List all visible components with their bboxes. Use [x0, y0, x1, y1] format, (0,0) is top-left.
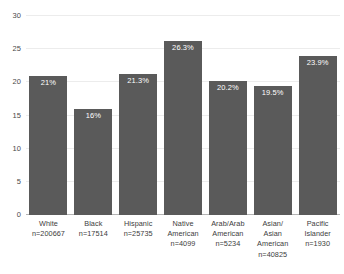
y-axis-tick-label: 30	[12, 11, 21, 20]
bar[interactable]: 21.3%	[119, 74, 157, 215]
x-axis-category-name: American	[205, 229, 250, 239]
bar-value-label: 21%	[29, 78, 67, 87]
x-axis-sample-size: n=200667	[26, 229, 71, 239]
x-axis-category-label: PacificIslandern=1930	[295, 219, 340, 260]
x-axis-sample-size: n=5234	[205, 239, 250, 249]
bar[interactable]: 23.9%	[299, 56, 337, 215]
x-axis-sample-size: n=4099	[161, 239, 206, 249]
x-axis-category-label: Hispanicn=25735	[116, 219, 161, 260]
bar-slot: 20.2%	[205, 16, 250, 215]
x-axis-category-name: Asian	[250, 229, 295, 239]
y-axis-tick-label: 10	[12, 143, 21, 152]
x-axis-category-name: Pacific	[295, 219, 340, 229]
x-axis-category-name: Arab/Arab	[205, 219, 250, 229]
y-axis-tick-label: 5	[17, 176, 21, 185]
bar-chart: 051015202530 21%16%21.3%26.3%20.2%19.5%2…	[0, 0, 344, 274]
bar-slot: 21%	[26, 16, 71, 215]
bar-slot: 23.9%	[295, 16, 340, 215]
bar-series: 21%16%21.3%26.3%20.2%19.5%23.9%	[26, 16, 340, 215]
bar-value-label: 26.3%	[164, 43, 202, 52]
bar-slot: 19.5%	[250, 16, 295, 215]
bar-value-label: 16%	[74, 111, 112, 120]
x-axis-category-name: Black	[71, 219, 116, 229]
x-axis-category-name: Native	[161, 219, 206, 229]
x-axis-category-label: Whiten=200667	[26, 219, 71, 260]
bar-value-label: 19.5%	[254, 88, 292, 97]
bar-value-label: 21.3%	[119, 76, 157, 85]
plot-area: 051015202530 21%16%21.3%26.3%20.2%19.5%2…	[26, 16, 340, 215]
x-axis-category-label: Arab/ArabAmericann=5234	[205, 219, 250, 260]
y-axis-tick-label: 20	[12, 77, 21, 86]
bar-slot: 16%	[71, 16, 116, 215]
x-axis-category-name: Asian/	[250, 219, 295, 229]
y-axis-tick-label: 0	[17, 210, 21, 219]
bar[interactable]: 19.5%	[254, 86, 292, 215]
x-axis-category-name: Hispanic	[116, 219, 161, 229]
bar-value-label: 23.9%	[299, 58, 337, 67]
x-axis-sample-size: n=25735	[116, 229, 161, 239]
x-axis-category-name: American	[161, 229, 206, 239]
bar[interactable]: 21%	[29, 76, 67, 215]
x-axis-category-label: NativeAmericann=4099	[161, 219, 206, 260]
bar-slot: 26.3%	[161, 16, 206, 215]
x-axis-labels: Whiten=200667Blackn=17514Hispanicn=25735…	[26, 219, 340, 260]
y-axis-tick-label: 25	[12, 44, 21, 53]
x-axis-sample-size: n=1930	[295, 239, 340, 249]
x-axis-category-name: American	[250, 239, 295, 249]
bar-slot: 21.3%	[116, 16, 161, 215]
x-axis-sample-size: n=17514	[71, 229, 116, 239]
bar[interactable]: 16%	[74, 109, 112, 215]
x-axis-category-label: Blackn=17514	[71, 219, 116, 260]
bar[interactable]: 26.3%	[164, 41, 202, 215]
bar-value-label: 20.2%	[209, 83, 247, 92]
y-axis-tick-label: 15	[12, 110, 21, 119]
x-axis-sample-size: n=40825	[250, 250, 295, 260]
x-axis-category-name: White	[26, 219, 71, 229]
x-axis-category-name: Islander	[295, 229, 340, 239]
x-axis-category-label: Asian/AsianAmericann=40825	[250, 219, 295, 260]
bar[interactable]: 20.2%	[209, 81, 247, 215]
